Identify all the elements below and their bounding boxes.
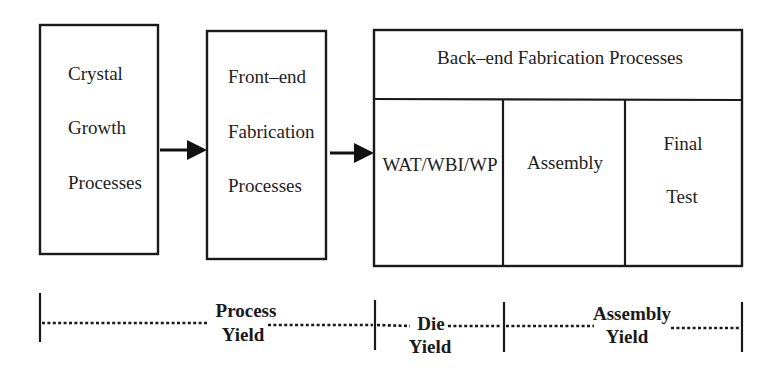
crystal-growth-label-line3: Processes [68,172,142,193]
crystal-growth-label-line1: Crystal [68,63,123,84]
assembly-yield-label-line1: Assembly [593,303,672,324]
yield-scale: Process Yield Die Yield Assembly Yield [40,293,742,357]
crystal-growth-box-border [40,25,158,254]
process-yield-label-line1: Process [216,300,277,321]
wat-wbi-wp-label: WAT/WBI/WP [382,154,497,175]
assembly-label: Assembly [527,152,604,173]
die-yield-label-line1: Die [417,313,444,334]
arrow-right-icon [354,143,374,163]
process-yield-diagram: Crystal Growth Processes Front–end Fabri… [0,0,779,374]
crystal-growth-box: Crystal Growth Processes [40,25,158,254]
process-yield-label-line2: Yield [222,324,265,345]
final-test-label-line1: Final [663,133,702,154]
back-end-box: Back–end Fabrication Processes WAT/WBI/W… [374,30,742,266]
final-test-label-line2: Test [666,186,698,207]
arrow-right-icon [187,140,207,160]
arrow-frontend-to-backend [330,143,374,163]
back-end-header-label: Back–end Fabrication Processes [437,47,683,68]
die-yield-dots-left [377,325,410,326]
arrow-crystal-to-frontend [160,140,207,160]
crystal-growth-label-line2: Growth [68,117,127,138]
back-end-header-divider [374,99,742,100]
front-end-label-line3: Processes [228,175,302,196]
front-end-label-line2: Fabrication [228,121,315,142]
front-end-box: Front–end Fabrication Processes [207,31,326,259]
assembly-yield-label-line2: Yield [606,326,649,347]
die-yield-label-line2: Yield [409,336,452,357]
front-end-label-line1: Front–end [228,66,307,87]
